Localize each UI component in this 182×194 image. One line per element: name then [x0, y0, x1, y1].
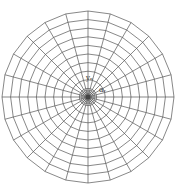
- mesh-radial-line: [66, 97, 88, 180]
- mesh-radial-line: [88, 23, 131, 97]
- mesh-radial-line: [88, 97, 131, 171]
- label-top: yₙ: [86, 75, 93, 82]
- polar-mesh-diagram: [0, 0, 182, 194]
- mesh-radial-line: [88, 97, 162, 140]
- mesh-radial-line: [14, 54, 88, 97]
- mesh-radial-lines: [2, 11, 174, 183]
- mesh-radial-line: [5, 75, 88, 97]
- mesh-radial-line: [66, 14, 88, 97]
- label-right: αᵣ: [99, 87, 106, 94]
- mesh-center: [86, 95, 91, 100]
- mesh-radial-line: [5, 97, 88, 119]
- mesh-radial-line: [14, 97, 88, 140]
- mesh-radial-line: [88, 14, 110, 97]
- mesh-radial-line: [88, 97, 110, 180]
- mesh-radial-line: [88, 97, 171, 119]
- mesh-radial-line: [45, 97, 88, 171]
- mesh-radial-line: [45, 23, 88, 97]
